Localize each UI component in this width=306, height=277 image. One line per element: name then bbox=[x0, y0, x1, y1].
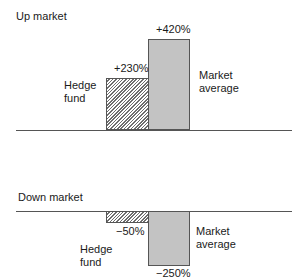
down-market-average-label-line1: Market bbox=[196, 225, 236, 238]
up-hedge-fund-bar bbox=[106, 78, 149, 130]
up-market-title: Up market bbox=[16, 10, 67, 22]
up-market-baseline bbox=[16, 130, 292, 131]
up-hedge-fund-label-line2: fund bbox=[64, 92, 96, 105]
down-hedge-fund-label-line1: Hedge bbox=[80, 243, 112, 256]
down-hedge-fund-label-line2: fund bbox=[80, 256, 112, 269]
up-hedge-fund-value: +230% bbox=[114, 62, 149, 75]
down-market-title: Down market bbox=[18, 191, 83, 203]
up-market-average-label-line2: average bbox=[199, 82, 239, 95]
down-hedge-fund-label: Hedge fund bbox=[80, 243, 112, 269]
up-hedge-fund-label-line1: Hedge bbox=[64, 79, 96, 92]
up-market-average-value: +420% bbox=[156, 23, 191, 36]
up-market-average-label: Market average bbox=[199, 69, 239, 95]
down-market-average-bar bbox=[148, 211, 190, 266]
up-market-average-label-line1: Market bbox=[199, 69, 239, 82]
down-hedge-fund-bar bbox=[106, 211, 149, 223]
down-market-average-label-line2: average bbox=[196, 238, 236, 251]
up-hedge-fund-label: Hedge fund bbox=[64, 79, 96, 105]
down-hedge-fund-value: −50% bbox=[116, 225, 144, 238]
down-market-average-label: Market average bbox=[196, 225, 236, 251]
up-market-average-bar bbox=[148, 39, 190, 130]
down-market-average-value: −250% bbox=[156, 267, 191, 277]
